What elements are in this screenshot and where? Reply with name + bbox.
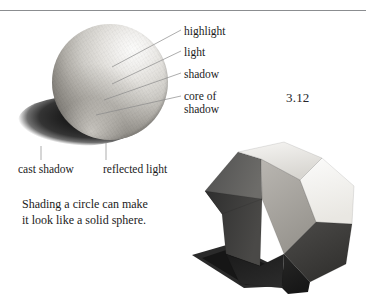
callout-label-light: light (184, 46, 205, 59)
figure-caption: Shading a circle can make it look like a… (22, 196, 212, 228)
shaded-sphere-illustration (18, 24, 168, 159)
sphere-grain-texture (52, 24, 168, 140)
callout-label-cast-shadow: cast shadow (18, 163, 74, 176)
callout-label-core-of-shadow: core of shadow (184, 90, 219, 116)
figure-page: highlight light shadow core of shadow ca… (0, 0, 368, 302)
callout-label-highlight: highlight (184, 25, 226, 38)
shaded-dodecahedron-illustration (186, 136, 368, 302)
callout-label-shadow: shadow (184, 68, 219, 81)
figure-number: 3.12 (286, 90, 310, 106)
callout-label-reflected-light: reflected light (103, 163, 167, 176)
top-divider-rule (0, 10, 366, 11)
